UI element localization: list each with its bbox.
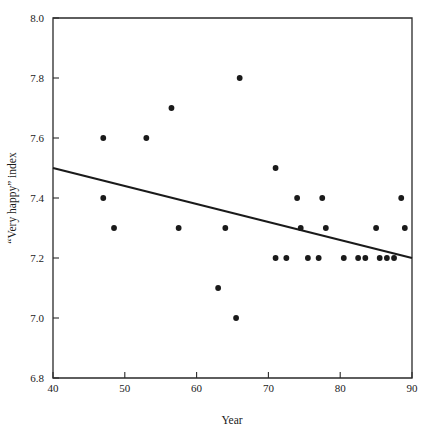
x-axis-ticks (53, 372, 412, 378)
x-axis-tick-labels: 405060708090 (48, 382, 419, 394)
data-point (305, 255, 311, 261)
x-tick-label: 50 (119, 382, 131, 394)
data-point (215, 285, 221, 291)
plot-frame (53, 18, 412, 378)
data-point (237, 75, 243, 81)
x-tick-label: 60 (191, 382, 203, 394)
data-point (143, 135, 149, 141)
data-point (222, 225, 228, 231)
data-point (402, 225, 408, 231)
data-point (233, 315, 239, 321)
y-tick-label: 6.8 (30, 372, 44, 384)
data-points-group (100, 75, 407, 321)
y-tick-label: 7.2 (30, 252, 44, 264)
y-tick-label: 7.8 (30, 72, 44, 84)
scatter-plot-figure: 405060708090 6.87.07.27.47.67.88.0 Year … (0, 0, 429, 444)
data-point (391, 255, 397, 261)
data-point (100, 135, 106, 141)
data-point (283, 255, 289, 261)
data-point (384, 255, 390, 261)
data-point (316, 255, 322, 261)
data-point (355, 255, 361, 261)
data-point (169, 105, 175, 111)
data-point (111, 225, 117, 231)
chart-canvas: 405060708090 6.87.07.27.47.67.88.0 Year … (0, 0, 429, 444)
x-tick-label: 80 (335, 382, 347, 394)
y-axis-ticks (53, 18, 59, 378)
x-tick-label: 40 (48, 382, 60, 394)
data-point (398, 195, 404, 201)
data-point (362, 255, 368, 261)
trend-line-group (53, 168, 412, 258)
data-point (341, 255, 347, 261)
y-tick-label: 7.0 (30, 312, 44, 324)
y-tick-label: 8.0 (30, 12, 44, 24)
x-tick-label: 70 (263, 382, 275, 394)
regression-trend-line (53, 168, 412, 258)
y-axis-tick-labels: 6.87.07.27.47.67.88.0 (30, 12, 44, 384)
data-point (100, 195, 106, 201)
y-axis-title: “Very happy” index (6, 152, 19, 244)
data-point (273, 165, 279, 171)
x-axis-title: Year (221, 414, 242, 426)
data-point (294, 195, 300, 201)
y-tick-label: 7.6 (30, 132, 44, 144)
data-point (323, 225, 329, 231)
data-point (298, 225, 304, 231)
data-point (273, 255, 279, 261)
data-point (377, 255, 383, 261)
data-point (373, 225, 379, 231)
x-tick-label: 90 (407, 382, 419, 394)
data-point (319, 195, 325, 201)
y-tick-label: 7.4 (30, 192, 44, 204)
data-point (176, 225, 182, 231)
